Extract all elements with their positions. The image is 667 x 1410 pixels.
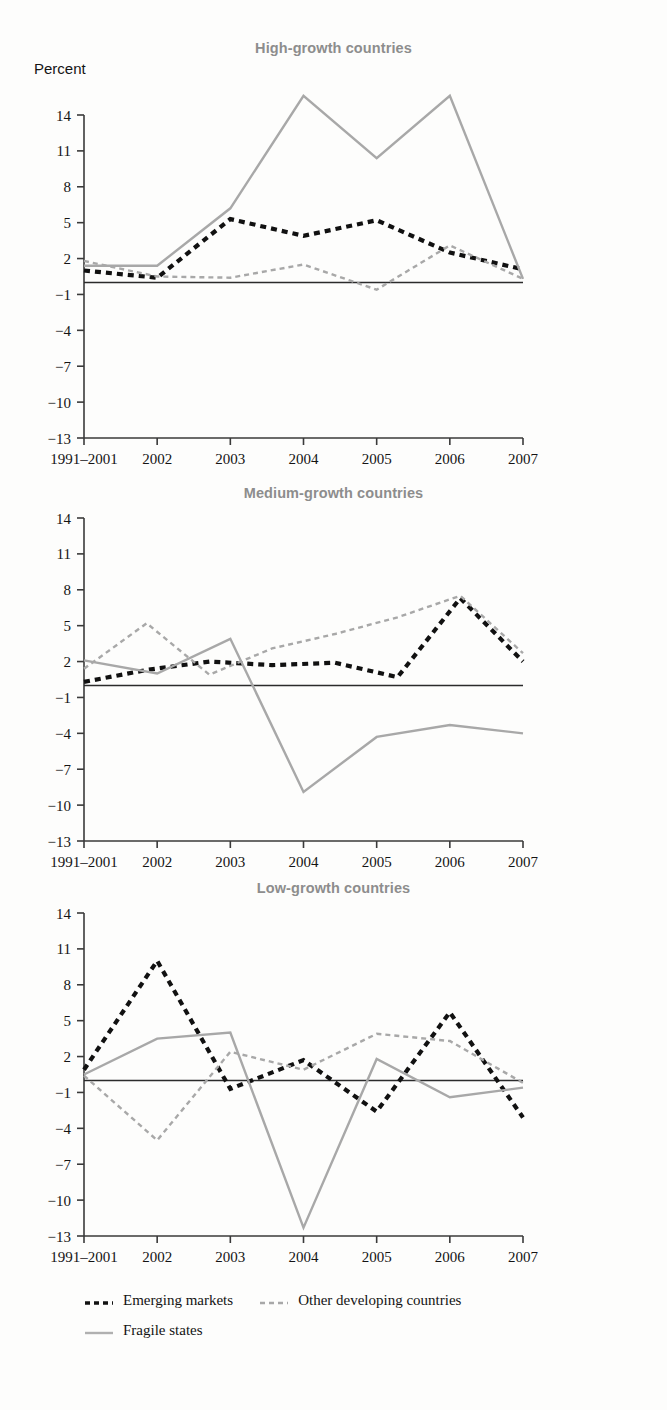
x-tick-label: 2005	[362, 451, 392, 467]
y-tick-label: −1	[55, 690, 71, 706]
y-tick-label: 11	[57, 143, 71, 159]
y-tick-label: −13	[48, 834, 71, 850]
x-tick-label: 2007	[508, 1249, 539, 1265]
x-tick-label: 2002	[142, 1249, 172, 1265]
x-tick-label: 2006	[435, 451, 466, 467]
x-tick-label: 2003	[215, 854, 245, 870]
x-tick-label: 2006	[435, 854, 466, 870]
y-tick-label: 5	[64, 618, 72, 634]
legend-entry-fragile-states[interactable]: Fragile states	[84, 1322, 203, 1339]
y-tick-label: −7	[55, 359, 71, 375]
y-tick-label: −10	[48, 395, 71, 411]
chart-panel-medium-growth: Medium-growth countries 1411852−1−4−7−10…	[0, 485, 667, 885]
y-tick-label: 2	[64, 1049, 72, 1065]
y-tick-label: 8	[64, 582, 72, 598]
x-tick-label: 1991–2001	[50, 1249, 118, 1265]
chart-panel-low-growth: Low-growth countries 1411852−1−4−7−10−13…	[0, 880, 667, 1280]
y-tick-label: 5	[64, 215, 72, 231]
x-tick-label: 2005	[362, 854, 392, 870]
y-tick-label: 8	[64, 179, 72, 195]
legend-row-1: Emerging markets Other developing countr…	[84, 1292, 461, 1309]
x-tick-label: 2004	[289, 854, 320, 870]
y-tick-label: 2	[64, 251, 72, 267]
plot-area-high-growth: 1411852−1−4−7−10−131991–2001200220032004…	[0, 40, 667, 480]
x-tick-label: 2002	[142, 854, 172, 870]
chart-legend: Emerging markets Other developing countr…	[0, 1292, 667, 1382]
y-tick-label: −4	[55, 726, 71, 742]
legend-label-fragile-states: Fragile states	[123, 1322, 203, 1339]
legend-label-other-developing-countries: Other developing countries	[298, 1292, 461, 1309]
y-tick-label: 11	[57, 546, 71, 562]
y-tick-label: −4	[55, 323, 71, 339]
x-tick-label: 2007	[508, 451, 539, 467]
y-tick-label: −1	[55, 1085, 71, 1101]
y-tick-label: 5	[64, 1013, 72, 1029]
legend-entry-emerging-markets[interactable]: Emerging markets	[84, 1292, 233, 1309]
y-tick-label: −10	[48, 798, 71, 814]
x-tick-label: 2004	[289, 1249, 320, 1265]
y-tick-label: −13	[48, 431, 71, 447]
y-tick-label: −1	[55, 287, 71, 303]
x-tick-label: 2002	[142, 451, 172, 467]
series-line-emerging-markets	[84, 219, 523, 278]
series-line-fragile-states	[84, 639, 523, 792]
y-tick-label: 14	[56, 906, 72, 922]
legend-entry-other-developing-countries[interactable]: Other developing countries	[259, 1292, 461, 1309]
plot-area-medium-growth: 1411852−1−4−7−10−131991–2001200220032004…	[0, 485, 667, 885]
dashed-gray-swatch	[259, 1295, 289, 1307]
x-tick-label: 2006	[435, 1249, 466, 1265]
y-tick-label: 11	[57, 941, 71, 957]
y-tick-label: 14	[56, 511, 72, 527]
chart-panel-high-growth: High-growth countries Percent 1411852−1−…	[0, 40, 667, 480]
legend-label-emerging-markets: Emerging markets	[123, 1292, 233, 1309]
y-tick-label: 14	[56, 108, 72, 124]
plot-area-low-growth: 1411852−1−4−7−10−131991–2001200220032004…	[0, 880, 667, 1280]
dashed-black-swatch	[84, 1295, 114, 1307]
y-tick-label: 8	[64, 977, 72, 993]
x-tick-label: 1991–2001	[50, 854, 118, 870]
x-tick-label: 1991–2001	[50, 451, 118, 467]
series-line-emerging-markets	[84, 961, 523, 1118]
x-tick-label: 2007	[508, 854, 539, 870]
x-tick-label: 2005	[362, 1249, 392, 1265]
y-tick-label: −7	[55, 762, 71, 778]
x-tick-label: 2004	[289, 451, 320, 467]
series-line-other-developing-countries	[84, 1034, 523, 1140]
y-tick-label: −7	[55, 1157, 71, 1173]
x-tick-label: 2003	[215, 451, 245, 467]
x-tick-label: 2003	[215, 1249, 245, 1265]
y-tick-label: −10	[48, 1193, 71, 1209]
solid-gray-swatch	[84, 1325, 114, 1337]
y-tick-label: −13	[48, 1229, 71, 1245]
y-tick-label: 2	[64, 654, 72, 670]
legend-row-2: Fragile states	[84, 1322, 203, 1339]
series-line-emerging-markets	[84, 598, 523, 682]
series-line-fragile-states	[84, 96, 523, 279]
y-tick-label: −4	[55, 1121, 71, 1137]
figure-root: High-growth countries Percent 1411852−1−…	[0, 0, 667, 1410]
